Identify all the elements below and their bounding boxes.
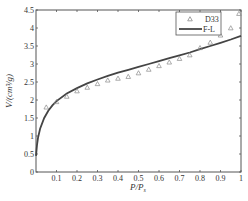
x-tick-label: 0.9 [216,174,226,183]
x-tick-label: 0.2 [72,174,82,183]
triangle-marker-icon [116,76,121,80]
fl-fit-line [36,36,241,156]
y-tick-label: 3 [30,60,34,69]
triangle-marker-icon [157,64,162,68]
fl-curve [36,36,241,156]
y-tick-label: 3.5 [24,42,34,51]
triangle-marker-icon [208,40,213,44]
y-tick-label: 0.5 [24,150,34,159]
x-axis-label: P/Ps [129,182,147,193]
x-tick-label: 0.6 [154,174,164,183]
triangle-marker-icon [228,26,233,30]
triangle-marker-icon [95,82,100,86]
y-axis-label: V/(cm³/g) [4,74,14,108]
y-tick-label: 2.5 [24,78,34,87]
x-tick-label: 0.3 [93,174,103,183]
triangle-marker-icon [85,85,90,89]
legend-label-d33: D33 [205,15,219,24]
x-tick-label: 0.4 [113,174,123,183]
legend: D33 F-L [176,12,221,35]
x-tick-label: 0.8 [195,174,205,183]
y-tick-label: 1 [30,132,34,141]
x-tick-label: 0.7 [175,174,185,183]
triangle-marker-icon [167,60,172,64]
triangle-marker-icon [105,78,110,82]
legend-label-fl: F-L [203,25,215,34]
triangle-marker-icon [146,67,151,71]
x-tick-label: 1 [239,174,243,183]
triangle-marker-icon [177,56,182,60]
x-axis-ticks: 0.10.20.30.40.50.60.70.80.91 [52,10,244,183]
chart: 00.511.522.533.544.5 0.10.20.30.40.50.60… [0,0,248,201]
y-tick-label: 1.5 [24,114,34,123]
x-tick-label: 0.1 [52,174,62,183]
y-tick-label: 4 [30,24,34,33]
triangle-marker-icon [44,105,49,109]
triangle-marker-icon [136,71,141,75]
y-tick-label: 0 [30,168,34,177]
y-tick-label: 2 [30,96,34,105]
y-tick-label: 4.5 [24,6,34,15]
triangle-marker-icon [126,74,131,78]
